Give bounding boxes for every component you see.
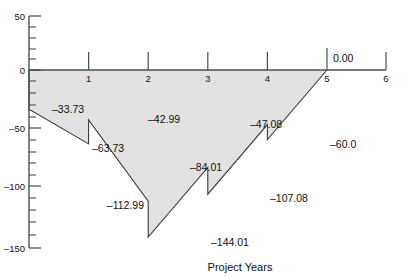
value-label-0-00: 0.00: [333, 52, 354, 64]
x-tick-label-3: 3: [205, 73, 210, 84]
x-tick-label-6: 6: [383, 73, 388, 84]
x-tick-label-5: 5: [324, 73, 329, 84]
value-label-144-01: –144.01: [211, 236, 249, 248]
x-tick-label-1: 1: [86, 73, 91, 84]
y-tick-label-0: 0: [20, 65, 25, 76]
chart-svg: 50 0 –50 –100 –150 1 2 3 4 5 6 –33.73 –: [0, 0, 405, 278]
y-tick-label-50: 50: [14, 11, 25, 22]
y-tick-label-m50: –50: [9, 123, 25, 134]
y-minor-ticks: [29, 27, 36, 235]
value-label-84-01: –84.01: [190, 161, 222, 173]
project-balance-chart: 50 0 –50 –100 –150 1 2 3 4 5 6 –33.73 –: [0, 0, 405, 278]
y-tick-label-m150: –150: [4, 243, 25, 254]
value-label-63-73: –63.73: [92, 142, 124, 154]
value-label-47-08: –47.08: [250, 118, 282, 130]
x-axis-title: Project Years: [208, 261, 273, 273]
y-tick-label-m100: –100: [4, 181, 25, 192]
value-label-112-99: –112.99: [107, 199, 144, 211]
value-label-60-0: –60.0: [330, 138, 356, 150]
flow-area-group: [29, 70, 327, 237]
value-label-107-08: –107.08: [270, 192, 308, 204]
x-tick-label-4: 4: [265, 73, 270, 84]
x-tick-label-2: 2: [146, 73, 151, 84]
flow-area-fill: [29, 70, 327, 237]
y-axis: 50 0 –50 –100 –150: [4, 11, 41, 254]
value-label-42-99: –42.99: [148, 113, 180, 125]
value-label-33-73: –33.73: [52, 103, 84, 115]
